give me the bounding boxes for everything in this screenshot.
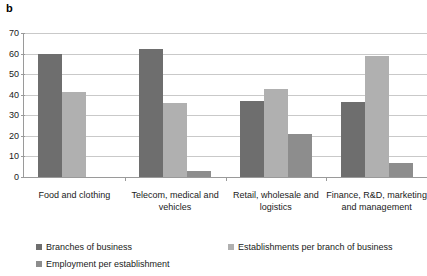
bar-group (341, 33, 413, 177)
bar (288, 134, 312, 177)
bar (240, 101, 264, 177)
x-axis-label: Food and clothing (24, 190, 125, 202)
bar-group (38, 33, 110, 177)
y-tick-mark (21, 33, 25, 34)
legend-label: Branches of business (46, 242, 132, 252)
y-tick-mark (21, 95, 25, 96)
x-axis-label: Telecom, medical and vehicles (125, 190, 226, 213)
bar (187, 171, 211, 177)
y-tick-mark (21, 156, 25, 157)
bar (62, 92, 86, 177)
legend-item[interactable]: Branches of business (36, 242, 132, 252)
bar (139, 49, 163, 177)
panel-label: b (6, 2, 13, 14)
bar (389, 163, 413, 177)
legend-item[interactable]: Establishments per branch of business (228, 242, 393, 252)
x-tick-mark (326, 177, 327, 181)
y-tick-label: 70 (0, 29, 19, 38)
y-tick-label: 30 (0, 111, 19, 120)
x-axis-labels: Food and clothingTelecom, medical and ve… (24, 190, 427, 236)
y-tick-mark (21, 54, 25, 55)
bar-group (139, 33, 211, 177)
y-tick-label: 50 (0, 70, 19, 79)
y-tick-label: 20 (0, 131, 19, 140)
legend-label: Employment per establishment (46, 259, 170, 269)
x-tick-mark (226, 177, 227, 181)
legend-item[interactable]: Employment per establishment (36, 259, 170, 269)
y-tick-mark (21, 177, 25, 178)
bar-group (240, 33, 312, 177)
y-tick-mark (21, 74, 25, 75)
bar (341, 102, 365, 177)
legend-swatch-icon (228, 244, 234, 250)
y-tick-label: 0 (0, 173, 19, 182)
plot-area (24, 33, 427, 177)
legend-swatch-icon (36, 261, 42, 267)
y-tick-label: 10 (0, 152, 19, 161)
y-tick-mark (21, 115, 25, 116)
x-axis-label: Retail, wholesale and logistics (226, 190, 327, 213)
y-tick-label: 60 (0, 49, 19, 58)
chart-legend: Branches of businessEstablishments per b… (36, 242, 427, 274)
legend-swatch-icon (36, 244, 42, 250)
legend-label: Establishments per branch of business (238, 242, 393, 252)
bar (365, 56, 389, 177)
bar (163, 103, 187, 177)
y-tick-label: 40 (0, 90, 19, 99)
bar (264, 89, 288, 177)
bar (38, 54, 62, 177)
x-axis-label: Finance, R&D, marketing and management (326, 190, 427, 213)
bar-chart: 010203040506070 (0, 22, 427, 188)
y-tick-mark (21, 136, 25, 137)
x-tick-mark (125, 177, 126, 181)
